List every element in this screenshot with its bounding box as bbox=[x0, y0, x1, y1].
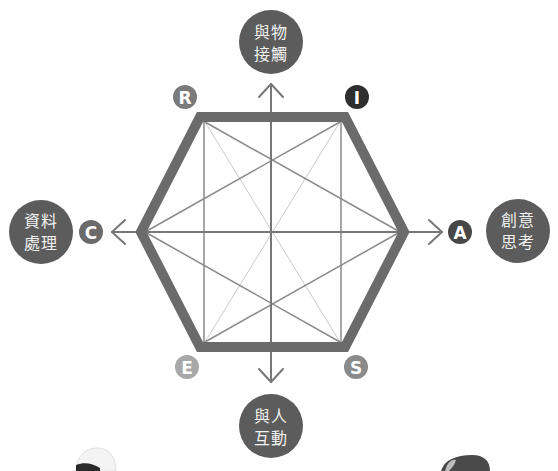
label-line-1: 與人 bbox=[254, 407, 288, 426]
letter-i: I bbox=[354, 88, 360, 108]
axis-label-bottom: 與人 互動 bbox=[239, 394, 303, 458]
label-line-2: 思考 bbox=[501, 233, 535, 252]
label-line-1: 與物 bbox=[254, 23, 288, 42]
letter-e: E bbox=[181, 358, 193, 378]
label-line-2: 互動 bbox=[254, 429, 288, 448]
letter-r: R bbox=[178, 88, 191, 108]
axis-label-left: 資料 處理 bbox=[9, 200, 73, 264]
decorative-cap-icon-right bbox=[441, 455, 490, 471]
axis-label-right: 創意 思考 bbox=[486, 199, 550, 263]
label-line-1: 創意 bbox=[501, 211, 535, 230]
label-line-1: 資料 bbox=[24, 212, 58, 231]
label-line-2: 接觸 bbox=[254, 45, 288, 64]
letter-badge-e: E bbox=[175, 355, 199, 379]
label-circle bbox=[9, 200, 73, 264]
axis-arrows bbox=[112, 84, 442, 382]
letter-c: C bbox=[85, 223, 97, 243]
letter-badge-i: I bbox=[345, 85, 369, 109]
letter-badge-a: A bbox=[448, 220, 472, 244]
letter-a: A bbox=[453, 223, 467, 243]
label-circle bbox=[239, 394, 303, 458]
axis-label-top: 與物 接觸 bbox=[239, 10, 303, 74]
decorative-cap-icon-left bbox=[76, 448, 116, 471]
riasec-diagram: R I C A E S 與物 接觸 與人 互動 資料 處理 創意 思考 bbox=[0, 0, 558, 471]
letter-badge-c: C bbox=[79, 220, 103, 244]
letter-s: S bbox=[350, 358, 362, 378]
label-circle bbox=[239, 10, 303, 74]
label-line-2: 處理 bbox=[24, 234, 58, 253]
letter-badge-r: R bbox=[173, 85, 197, 109]
label-circle bbox=[486, 199, 550, 263]
letter-badge-s: S bbox=[344, 355, 368, 379]
